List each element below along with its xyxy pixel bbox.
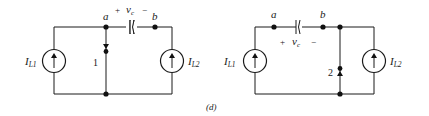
vc-label: vc [126, 3, 135, 17]
vc-plus-label: + [280, 37, 285, 47]
vc-minus-label: − [311, 37, 316, 47]
node-b-right [320, 24, 325, 29]
switch-1-marker [103, 44, 109, 54]
node-a-right [271, 24, 276, 29]
node-a-label: a [103, 10, 109, 22]
IL1-label-left: IL1 [24, 55, 37, 69]
IL1-label-right: IL1 [223, 55, 236, 69]
node-bottom-right [337, 91, 342, 96]
current-source-IL2-left [161, 50, 184, 73]
vc-minus-label: − [142, 5, 147, 15]
capacitor-left [130, 20, 134, 34]
node-a-label: a [271, 8, 277, 20]
node-a-left [103, 24, 108, 29]
current-source-IL2-right [363, 50, 386, 73]
vc-label: vc [292, 35, 301, 49]
IL2-label-right: IL2 [389, 55, 402, 69]
current-source-IL1-right [244, 50, 267, 73]
node-b-label: b [320, 8, 326, 20]
node-bottom-left [103, 91, 108, 96]
node-b-left [152, 24, 157, 29]
capacitor-right [296, 20, 300, 34]
IL2-label-left: IL2 [187, 55, 200, 69]
node-b-label: b [152, 10, 158, 22]
switch-2-label: 2 [328, 67, 333, 78]
switch-1-label: 1 [93, 57, 98, 68]
node-top-right [337, 24, 342, 29]
vc-plus-label: + [115, 5, 120, 15]
circuit-figure: a b + vc − 1 IL1 IL2 [0, 0, 429, 116]
current-source-IL1-left [43, 50, 66, 73]
circuit-left: a b + vc − 1 IL1 IL2 [24, 3, 200, 97]
switch-2-marker [337, 66, 343, 76]
circuit-right: a b + vc − 2 IL1 IL2 [223, 8, 402, 97]
figure-label: (d) [206, 102, 217, 112]
